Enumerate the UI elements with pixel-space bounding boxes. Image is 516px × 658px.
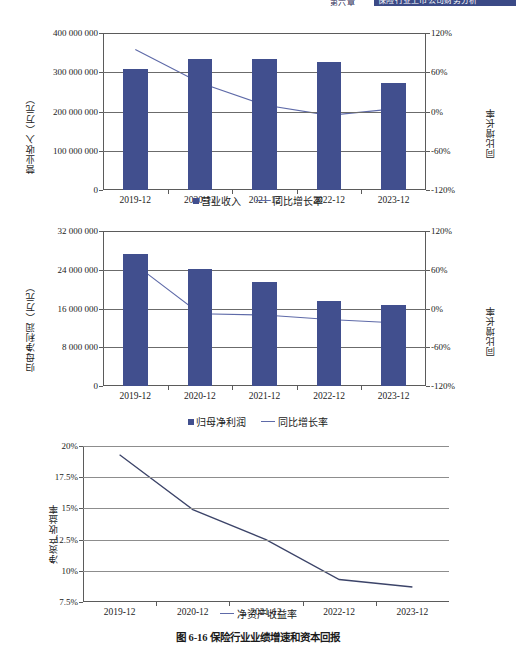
x-tick-mark bbox=[361, 190, 362, 194]
y-axis-tick-label: 24 000 000 bbox=[58, 265, 99, 274]
chart-roe-legend: 净资产收益率 bbox=[0, 609, 516, 621]
bar bbox=[188, 269, 213, 386]
y-axis-tick-label: 32 000 000 bbox=[58, 227, 99, 236]
y-tick-mark bbox=[79, 571, 83, 572]
y-axis-tick-label-right: -120% bbox=[431, 382, 455, 391]
y-axis-tick-label: 400 000 000 bbox=[53, 29, 98, 38]
y-tick-mark-right bbox=[426, 347, 430, 348]
legend-line-icon bbox=[256, 200, 270, 201]
legend-item-roe: 净资产收益率 bbox=[220, 609, 297, 621]
legend-item-growth: 同比增长率 bbox=[256, 196, 323, 208]
chart-revenue-y-axis-title-right: 同比增长率 bbox=[484, 66, 498, 158]
y-tick-mark bbox=[79, 540, 83, 541]
y-axis-tick-label: 17.5% bbox=[55, 473, 78, 482]
y-tick-mark bbox=[79, 508, 83, 509]
y-tick-mark bbox=[99, 72, 103, 73]
legend-item-revenue: 营业收入 bbox=[193, 196, 241, 208]
y-tick-mark bbox=[99, 112, 103, 113]
legend-item-net-profit: 归母净利润 bbox=[188, 417, 246, 429]
chart-net-profit-legend: 归母净利润 同比增长率 bbox=[0, 417, 516, 429]
chart-net-profit: 归母净利润（万元） 同比增长率 08 000 00016 000 00024 0… bbox=[0, 222, 516, 422]
chart-roe-line-series bbox=[83, 446, 449, 602]
legend-label-roe: 净资产收益率 bbox=[237, 609, 297, 620]
bar bbox=[188, 59, 213, 190]
y-axis-tick-label: 16 000 000 bbox=[58, 304, 99, 313]
y-tick-mark bbox=[99, 309, 103, 310]
bar bbox=[381, 305, 406, 386]
y-tick-mark bbox=[99, 151, 103, 152]
y-tick-mark bbox=[99, 190, 103, 191]
y-tick-mark-right bbox=[426, 72, 430, 73]
y-axis-tick-label: 20% bbox=[62, 442, 79, 451]
legend-line-icon bbox=[220, 613, 234, 614]
x-tick-mark bbox=[156, 602, 157, 606]
y-axis-tick-label-right: 60% bbox=[431, 68, 448, 77]
y-axis-tick-label: 300 000 000 bbox=[53, 68, 98, 77]
legend-item-growth-2: 同比增长率 bbox=[261, 417, 328, 429]
legend-line-icon bbox=[261, 421, 275, 422]
figure-page: 第六章 保险行业上市公司财务分析 营业收入（万元） 同比增长率 0100 000… bbox=[0, 0, 516, 658]
y-tick-mark-right bbox=[426, 151, 430, 152]
y-axis-tick-label: 10% bbox=[62, 566, 79, 575]
bar bbox=[252, 59, 277, 190]
chart-net-profit-plot-area: 08 000 00016 000 00024 000 00032 000 000… bbox=[103, 231, 426, 386]
chart-roe: 净资产收益率 7.5%10%12.5%15%17.5%20%2019-12202… bbox=[0, 432, 516, 622]
bar bbox=[317, 62, 342, 190]
gridline bbox=[83, 508, 449, 509]
x-tick-mark bbox=[376, 602, 377, 606]
legend-label-revenue: 营业收入 bbox=[201, 196, 241, 207]
y-tick-mark bbox=[79, 477, 83, 478]
legend-square-icon bbox=[193, 198, 199, 204]
x-tick-mark bbox=[168, 190, 169, 194]
y-axis-tick-label-right: -120% bbox=[431, 186, 455, 195]
chart-revenue-y-axis-title: 营业收入（万元） bbox=[24, 44, 38, 174]
chart-net-profit-y-axis-title: 归母净利润（万元） bbox=[24, 242, 38, 372]
y-tick-mark-right bbox=[426, 386, 430, 387]
y-tick-mark bbox=[99, 386, 103, 387]
y-tick-mark-right bbox=[426, 231, 430, 232]
y-axis-tick-label: 15% bbox=[62, 504, 79, 513]
y-axis-tick-label-right: 120% bbox=[431, 29, 452, 38]
chart-revenue-legend: 营业收入 同比增长率 bbox=[0, 196, 516, 208]
y-axis-tick-label-right: 120% bbox=[431, 227, 452, 236]
bar bbox=[381, 83, 406, 190]
y-tick-mark bbox=[79, 446, 83, 447]
y-axis-tick-label: 7.5% bbox=[59, 598, 78, 607]
y-axis-tick-label: 0 bbox=[94, 186, 99, 195]
bar bbox=[317, 301, 342, 386]
y-tick-mark bbox=[99, 33, 103, 34]
chart-revenue: 营业收入（万元） 同比增长率 0100 000 000200 000 00030… bbox=[0, 0, 516, 210]
y-axis-tick-label-right: -60% bbox=[431, 343, 451, 352]
figure-caption: 图 6-16 保险行业业绩增速和资本回报 bbox=[0, 631, 516, 644]
x-tick-mark bbox=[232, 190, 233, 194]
x-axis-tick-label: 2023-12 bbox=[378, 391, 410, 402]
y-axis-tick-label-right: -60% bbox=[431, 146, 451, 155]
gridline bbox=[83, 571, 449, 572]
y-axis-tick-label: 100 000 000 bbox=[53, 146, 98, 155]
y-axis-tick-label: 8 000 000 bbox=[62, 343, 98, 352]
gridline bbox=[83, 540, 449, 541]
x-tick-mark bbox=[303, 602, 304, 606]
y-tick-mark bbox=[79, 602, 83, 603]
y-axis-tick-label-right: 60% bbox=[431, 265, 448, 274]
y-axis-tick-label: 200 000 000 bbox=[53, 107, 98, 116]
x-axis-tick-label: 2020-12 bbox=[184, 391, 216, 402]
y-tick-mark-right bbox=[426, 270, 430, 271]
y-tick-mark bbox=[99, 347, 103, 348]
line-series-path bbox=[120, 455, 413, 587]
y-axis-tick-label: 12.5% bbox=[55, 535, 78, 544]
gridline bbox=[103, 270, 426, 271]
y-tick-mark-right bbox=[426, 33, 430, 34]
chart-revenue-plot-area: 0100 000 000200 000 000300 000 000400 00… bbox=[103, 33, 426, 190]
x-tick-mark bbox=[232, 386, 233, 390]
legend-square-icon bbox=[188, 419, 194, 425]
bar bbox=[123, 69, 148, 190]
y-tick-mark-right bbox=[426, 309, 430, 310]
legend-label-growth-2: 同比增长率 bbox=[278, 417, 328, 428]
chart-roe-y-axis-title: 净资产收益率 bbox=[47, 484, 61, 564]
y-tick-mark-right bbox=[426, 190, 430, 191]
y-axis-tick-label-right: 0% bbox=[431, 107, 443, 116]
bar bbox=[252, 282, 277, 386]
y-tick-mark-right bbox=[426, 112, 430, 113]
y-tick-mark bbox=[99, 231, 103, 232]
